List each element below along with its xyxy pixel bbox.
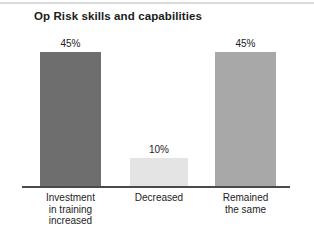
bar-category-label-decreased: Decreased <box>124 192 194 204</box>
bar-category-label-line-1: Remained <box>209 192 282 204</box>
bar-value-label: 10% <box>124 144 194 155</box>
x-axis-line <box>22 186 290 188</box>
bar-value-label: 45% <box>34 38 107 49</box>
bar-group-remained-the-same: 45% Remained the same <box>209 0 282 238</box>
bar-remained-the-same[interactable] <box>215 52 276 186</box>
bar-group-decreased: 10% Decreased <box>124 0 194 238</box>
plot-area: 45% Investment in training increased 10%… <box>0 0 314 238</box>
bar-investment-in-training-increased[interactable] <box>40 52 101 186</box>
bar-category-label-line-1: Decreased <box>124 192 194 204</box>
bar-category-label-line-2: the same <box>209 204 282 216</box>
bar-category-label-line-3: increased <box>34 215 107 227</box>
bar-category-label-line-1: Investment <box>34 192 107 204</box>
bar-value-label: 45% <box>209 38 282 49</box>
bar-category-label-line-2: in training <box>34 204 107 216</box>
bar-category-label-investment-in-training-increased: Investment in training increased <box>34 192 107 227</box>
bar-category-label-remained-the-same: Remained the same <box>209 192 282 215</box>
bar-decreased[interactable] <box>130 158 188 186</box>
bar-group-investment-in-training-increased: 45% Investment in training increased <box>34 0 107 238</box>
chart-figure: Op Risk skills and capabilities 45% Inve… <box>0 0 314 238</box>
